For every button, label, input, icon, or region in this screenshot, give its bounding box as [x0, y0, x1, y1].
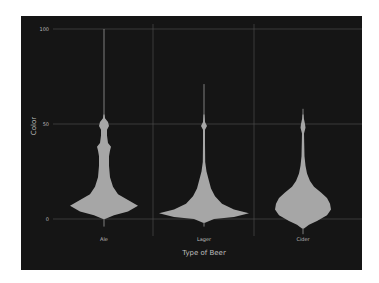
x-axis-title: Type of Beer: [181, 249, 226, 257]
x-tick-cider: Cider: [296, 236, 310, 242]
cider-violin[interactable]: [275, 115, 331, 229]
lager-violin[interactable]: [159, 115, 249, 223]
y-axis-title: Color: [30, 117, 38, 135]
x-axis-ticks: Ale Lager Cider: [100, 236, 310, 243]
violins: [70, 29, 331, 234]
ale-violin[interactable]: [70, 115, 138, 220]
x-tick-ale: Ale: [100, 236, 108, 242]
y-tick-0: 0: [46, 216, 49, 222]
violin-chart: 100 50 0 Ale Lager Cider Type of Beer Co…: [21, 16, 362, 270]
y-axis-ticks: 100 50 0: [39, 26, 49, 222]
y-tick-50: 50: [43, 121, 49, 127]
y-tick-100: 100: [39, 26, 49, 32]
x-tick-lager: Lager: [197, 236, 212, 243]
chart-figure: 100 50 0 Ale Lager Cider Type of Beer Co…: [21, 16, 362, 270]
